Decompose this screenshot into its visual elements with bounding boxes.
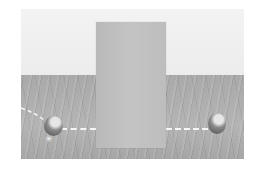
trajectory-right-segment [166,128,208,130]
left-ball [44,116,63,136]
scene-viewport: ✳ [21,9,244,159]
trajectory-left-segment [61,128,96,130]
impact-spark-icon: ✳ [45,135,53,144]
right-ball [208,113,226,134]
occluder-panel [96,22,166,148]
